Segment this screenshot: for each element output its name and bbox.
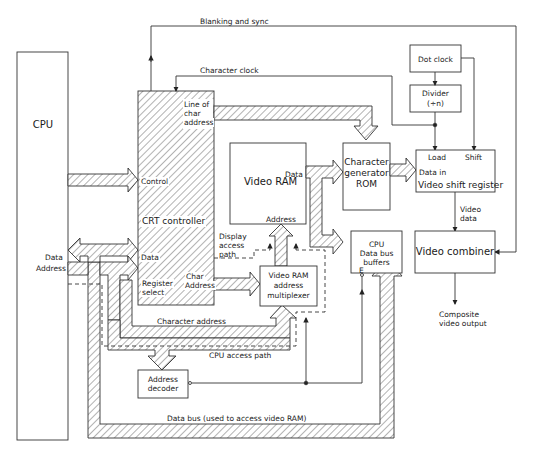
register-select-label-2: select [141, 288, 165, 297]
char-address-to-mux [214, 272, 260, 296]
vram-mux-label-1: Video RAM [260, 271, 317, 280]
data-bus-label: Data bus (used to access video RAM) [167, 414, 306, 423]
chargen-to-shiftreg [390, 158, 416, 182]
buffers-label-1: CPU [351, 240, 402, 249]
shift-reg-load-port: Load [428, 153, 446, 162]
line-of-char-address-bus [214, 106, 378, 140]
video-ram-address-port: Address [266, 215, 296, 224]
cpu-data-label: Data [45, 253, 63, 262]
line-of-char-label-1: Line of [183, 100, 210, 109]
cpu-access-path-label: CPU access path [209, 351, 271, 360]
char-gen-line-1: Character [343, 157, 390, 168]
vram-data-to-chargen [306, 160, 343, 254]
buffers-label-2: Data bus [351, 249, 402, 258]
blanking-sync-label: Blanking and sync [200, 17, 269, 26]
cpu-data-arrow [68, 238, 138, 262]
crt-controller-label: CRT controller [141, 216, 206, 227]
control-arrow [68, 168, 138, 192]
character-address-label: Character address [157, 317, 226, 326]
char-gen-line-3: ROM [343, 179, 390, 190]
video-data-label-2: data [460, 214, 477, 223]
vram-mux-label-2: address [260, 281, 317, 290]
shift-reg-data-in-port: Data in [419, 168, 446, 177]
display-access-label-2: access [219, 241, 244, 250]
cpu-label: CPU [30, 119, 56, 131]
mux-to-vram-address [269, 224, 293, 266]
control-port-label: Control [140, 177, 169, 186]
cpu-address-bus [68, 262, 88, 275]
data-port-label: Data [140, 253, 160, 262]
cpu-block [17, 52, 68, 440]
line-of-char-label-3: address [183, 118, 214, 127]
composite-label-2: video output [439, 319, 487, 328]
shift-reg-label: Video shift register [418, 180, 503, 191]
crt-video-block-diagram [0, 0, 534, 458]
char-gen-line-2: generator [343, 168, 390, 179]
character-clock-label: Character clock [200, 66, 259, 75]
display-access-label-3: path [219, 250, 236, 259]
dot-clock-label: Dot clock [410, 55, 461, 64]
address-decoder-label-1: Address [138, 375, 188, 384]
video-ram-data-port: Data [285, 170, 303, 179]
display-access-label-1: Display [219, 232, 247, 241]
divider-label-1: Divider [410, 89, 461, 98]
register-select-label-1: Register [141, 279, 174, 288]
vram-mux-label-3: multiplexer [260, 291, 317, 300]
divider-label-2: (÷n) [410, 99, 461, 108]
char-address-label-2: Address [184, 281, 216, 290]
shift-reg-shift-port: Shift [465, 153, 482, 162]
video-data-label-1: Video [460, 205, 481, 214]
buffers-enable-label: E [359, 266, 364, 275]
composite-label-1: Composite [439, 310, 479, 319]
video-combiner-label: Video combiner [415, 246, 495, 258]
char-address-label-1: Char [185, 272, 205, 281]
line-of-char-label-2: char [183, 109, 202, 118]
address-decoder-label-2: decoder [138, 384, 188, 393]
cpu-address-label: Address [36, 264, 66, 273]
